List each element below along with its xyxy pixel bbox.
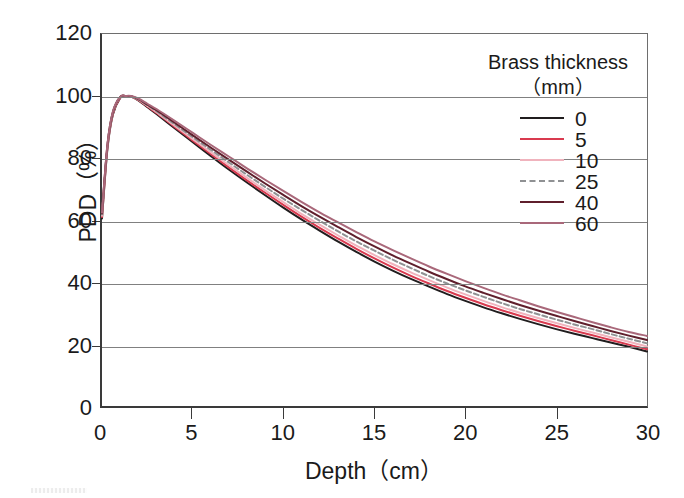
scan-artifact [31, 488, 87, 493]
gridline-y-40 [102, 284, 647, 285]
x-tick-label-25: 25 [544, 420, 568, 446]
x-tick-mark-20 [465, 408, 466, 419]
x-axis-tick-labels: 051015202530 [100, 420, 648, 450]
x-axis-tick-marks [100, 408, 648, 420]
x-tick-label-5: 5 [185, 420, 197, 446]
legend-swatch-10mm [520, 159, 564, 161]
x-tick-mark-10 [283, 408, 284, 419]
legend-label-60mm: 60 [575, 213, 598, 234]
x-tick-label-30: 30 [636, 420, 660, 446]
x-tick-mark-5 [191, 408, 192, 419]
legend-item-5mm[interactable]: 5 [520, 129, 648, 150]
legend-swatch-25mm [520, 180, 564, 182]
legend-label-40mm: 40 [575, 192, 598, 213]
x-tick-label-20: 20 [453, 420, 477, 446]
y-axis-title: PDD（%） [69, 95, 103, 275]
legend-title-line1: Brass thickness [468, 50, 648, 75]
legend-label-10mm: 10 [575, 150, 598, 171]
legend-item-25mm[interactable]: 25 [520, 171, 648, 192]
x-tick-label-10: 10 [270, 420, 294, 446]
legend-label-25mm: 25 [575, 171, 598, 192]
legend-item-10mm[interactable]: 10 [520, 150, 648, 171]
pdd-chart-figure: 020406080100120 PDD（%） 051015202530 Dept… [0, 0, 684, 498]
legend-item-40mm[interactable]: 40 [520, 192, 648, 213]
legend-swatch-40mm [520, 201, 564, 203]
legend-item-60mm[interactable]: 60 [520, 213, 648, 234]
legend-swatch-5mm [520, 138, 564, 140]
legend-title-line2: （mm） [468, 75, 648, 100]
legend-items: 0510254060 [468, 108, 648, 234]
y-tick-label-0: 0 [80, 395, 92, 421]
legend-label-0mm: 0 [575, 108, 587, 129]
x-tick-mark-15 [374, 408, 375, 419]
legend-swatch-0mm [520, 117, 564, 119]
legend-label-5mm: 5 [575, 129, 587, 150]
x-axis-title: Depth（cm） [100, 452, 648, 486]
x-tick-label-0: 0 [94, 420, 106, 446]
legend-swatch-60mm [520, 222, 564, 224]
x-tick-label-15: 15 [362, 420, 386, 446]
y-tick-label-120: 120 [55, 20, 92, 46]
gridline-y-20 [102, 347, 647, 348]
y-tick-label-20: 20 [68, 333, 92, 359]
legend: Brass thickness （mm） 0510254060 [468, 50, 648, 234]
legend-item-0mm[interactable]: 0 [520, 108, 648, 129]
x-tick-mark-25 [557, 408, 558, 419]
